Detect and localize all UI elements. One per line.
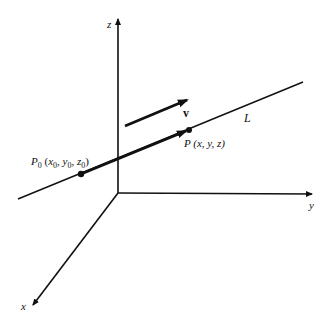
point-p-label: P (x, y, z) — [183, 137, 225, 150]
x-axis-label: x — [20, 300, 26, 312]
vector-v-label: v — [183, 106, 189, 120]
diagram-canvas: z y x L v P (x, y, z) P0 (x0, y0, z0) — [0, 0, 329, 328]
y-axis-label: y — [308, 199, 314, 211]
diagram-svg: z y x L v P (x, y, z) P0 (x0, y0, z0) — [0, 0, 329, 328]
p0-to-p-vector — [81, 131, 186, 174]
x-axis — [33, 193, 118, 305]
z-axis-label: z — [106, 18, 112, 30]
point-p0-label: P0 (x0, y0, z0) — [30, 155, 89, 170]
vector-v — [125, 100, 187, 126]
y-axis — [118, 193, 312, 194]
p0-close: ) — [85, 155, 89, 168]
point-p0 — [78, 171, 84, 177]
line-L-label: L — [243, 111, 251, 125]
point-p — [186, 127, 192, 133]
